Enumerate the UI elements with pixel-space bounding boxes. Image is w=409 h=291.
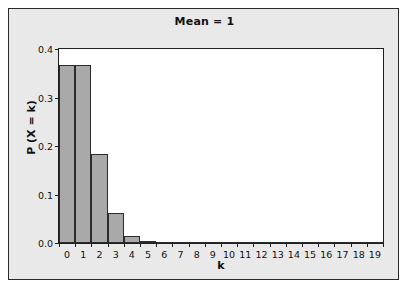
x-axis-tick [59, 243, 60, 247]
x-axis-tick [172, 243, 173, 247]
bar [302, 242, 318, 243]
bar [156, 242, 172, 243]
x-axis-title: k [58, 259, 384, 272]
bar [351, 242, 367, 243]
y-axis-tick [55, 146, 59, 147]
bar [189, 242, 205, 243]
bar [286, 242, 302, 243]
y-axis-tick [55, 98, 59, 99]
y-axis-tick-label: 0.1 [38, 189, 53, 200]
x-axis-tick [286, 243, 287, 247]
bar [334, 242, 350, 243]
x-axis-tick [205, 243, 206, 247]
x-axis-tick [270, 243, 271, 247]
bar [75, 65, 91, 243]
bar [205, 242, 221, 243]
bar [237, 242, 253, 243]
bar [59, 65, 75, 243]
y-axis-tick-label: 0.3 [38, 92, 53, 103]
y-axis-tick-label: 0.2 [38, 141, 53, 152]
bar [367, 242, 383, 243]
x-axis-tick [140, 243, 141, 247]
bar [318, 242, 334, 243]
x-axis-tick [253, 243, 254, 247]
plot-area: 0.00.10.20.30.40123456789101112131415161… [58, 48, 384, 244]
bar [140, 241, 156, 243]
bar [91, 154, 107, 243]
bar [124, 236, 140, 243]
x-axis-tick [302, 243, 303, 247]
y-axis-tick [55, 49, 59, 50]
chart-title: Mean = 1 [9, 15, 400, 28]
figure-frame: Mean = 1 P (X = k) 0.00.10.20.30.4012345… [8, 8, 399, 280]
x-axis-tick [91, 243, 92, 247]
x-axis-tick [367, 243, 368, 247]
x-axis-tick [108, 243, 109, 247]
x-axis-tick [75, 243, 76, 247]
bar [253, 242, 269, 243]
y-axis-tick-label: 0.0 [38, 238, 53, 249]
x-axis-tick [334, 243, 335, 247]
x-axis-tick [383, 243, 384, 247]
bar [108, 213, 124, 243]
bar [270, 242, 286, 243]
x-axis-tick [318, 243, 319, 247]
y-axis-tick [55, 195, 59, 196]
x-axis-tick [351, 243, 352, 247]
bar [172, 242, 188, 243]
x-axis-tick [156, 243, 157, 247]
x-axis-tick [189, 243, 190, 247]
x-axis-tick [221, 243, 222, 247]
y-axis-title: P (X = k) [25, 58, 38, 198]
bars-layer [59, 49, 383, 243]
x-axis-tick [237, 243, 238, 247]
x-axis-tick [124, 243, 125, 247]
y-axis-tick-label: 0.4 [38, 44, 53, 55]
bar [221, 242, 237, 243]
